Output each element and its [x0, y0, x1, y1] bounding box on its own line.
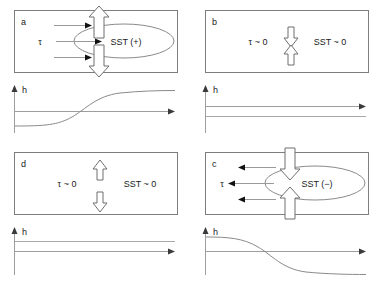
- panel-b-block-arrow-down: [284, 27, 298, 47]
- panel-a-h-curve: [15, 91, 175, 127]
- panel-c-block-arrows: [280, 148, 300, 219]
- panel-d-curve-label: h: [22, 227, 27, 237]
- panel-a-curve-label: h: [22, 85, 27, 95]
- panel-b: b τ ~ 0 SST ~ 0: [206, 11, 369, 73]
- panel-d-sst-label: SST ~ 0: [124, 179, 157, 189]
- panel-b-label: b: [212, 17, 217, 27]
- panel-c-tau-label: τ: [220, 179, 224, 189]
- panel-c-curve-label: h: [213, 227, 218, 237]
- panel-b-curve-label: h: [213, 85, 218, 95]
- panel-a-h-plot: h: [12, 85, 176, 133]
- panel-b-block-arrows: [284, 27, 298, 65]
- panel-d-block-arrows: [93, 160, 107, 212]
- panel-c: c τ SST (−): [206, 148, 369, 219]
- panel-b-h-plot: h: [203, 85, 367, 133]
- panel-b-tau-label: τ ~ 0: [249, 37, 268, 47]
- figure-container: a τ SST (+) h b: [0, 0, 382, 284]
- panel-b-block-arrow-up: [284, 45, 298, 65]
- panel-d: d τ ~ 0 SST ~ 0: [15, 153, 178, 215]
- panel-a-sst-label: SST (+): [110, 37, 141, 47]
- panel-c-sst-label: SST (−): [301, 179, 332, 189]
- panel-c-h-curve: [206, 237, 366, 275]
- panel-b-sst-label: SST ~ 0: [314, 37, 347, 47]
- panel-a-tau-label: τ: [38, 37, 42, 47]
- panel-a: a τ SST (+): [15, 6, 178, 77]
- panel-c-label: c: [212, 159, 217, 169]
- panel-d-block-arrow-down: [93, 192, 107, 212]
- panel-d-tau-label: τ ~ 0: [58, 179, 77, 189]
- panel-c-h-plot: h: [203, 227, 367, 275]
- panel-c-thin-arrows: [228, 165, 276, 203]
- panel-d-block-arrow-up: [93, 160, 107, 180]
- panel-d-label: d: [21, 159, 26, 169]
- panel-d-h-plot: h: [12, 227, 176, 275]
- panel-a-label: a: [21, 17, 26, 27]
